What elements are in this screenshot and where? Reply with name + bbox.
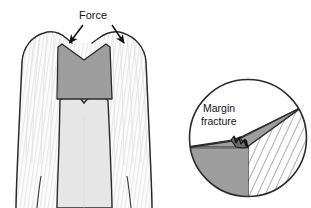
figure-canvas: Force	[0, 0, 311, 208]
pulp-chamber	[57, 97, 112, 208]
margin-fracture-label-line1: Margin	[203, 102, 235, 114]
dental-figure-root: Force	[0, 0, 311, 208]
force-label: Force	[79, 9, 107, 21]
margin-fracture-label-line2: fracture	[201, 115, 237, 127]
